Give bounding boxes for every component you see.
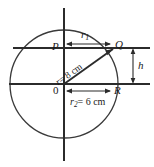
r1-label-subscript: 1 xyxy=(85,33,89,42)
height-label: h xyxy=(138,60,144,71)
h-arrowhead-top xyxy=(131,48,136,54)
r2-arrowhead-right xyxy=(105,89,111,94)
geometry-figure: P Q 0 R r1 r= 8 cm r2= 6 cm h xyxy=(0,0,154,167)
point-label-r: R xyxy=(114,85,121,96)
r1-label: r1 xyxy=(81,29,89,42)
r2-label-value: = 6 cm xyxy=(78,96,106,107)
figure-canvas xyxy=(0,0,154,167)
r2-arrowhead-left xyxy=(66,89,72,94)
point-label-p: P xyxy=(52,41,59,52)
r1-arrowhead-left xyxy=(66,42,72,47)
r1-arrowhead-right xyxy=(105,42,111,47)
point-label-q: Q xyxy=(115,39,123,50)
r2-length-label: r2= 6 cm xyxy=(70,97,105,109)
point-label-o: 0 xyxy=(53,85,59,96)
